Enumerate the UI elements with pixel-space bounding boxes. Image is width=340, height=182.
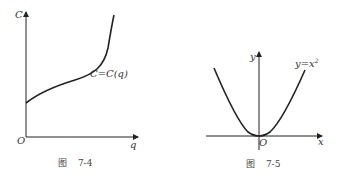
origin-label: O — [17, 135, 25, 146]
x-axis-label: x — [318, 136, 324, 147]
caption-prefix: 图 — [58, 158, 67, 168]
caption-number: 7-5 — [266, 159, 281, 169]
figure-canvas: C q O C=C(q) 图 7-4 y x O y=x2 图 7-5 — [0, 0, 340, 182]
y-axis-label: C — [15, 9, 23, 20]
origin-label: O — [259, 137, 267, 148]
curve-label: y=x2 — [294, 57, 319, 69]
curve-label: C=C(q) — [90, 68, 128, 79]
caption-prefix: 图 — [246, 159, 255, 169]
cost-curve — [26, 15, 114, 103]
figure-7-4: C q O C=C(q) 图 7-4 — [15, 9, 138, 168]
caption-number: 7-4 — [78, 158, 93, 168]
x-axis-label: q — [130, 139, 136, 150]
figure-caption: 图 7-4 — [58, 158, 93, 168]
y-axis-label: y — [249, 51, 256, 62]
figure-caption: 图 7-5 — [246, 159, 281, 169]
figure-7-5: y x O y=x2 图 7-5 — [206, 51, 324, 169]
